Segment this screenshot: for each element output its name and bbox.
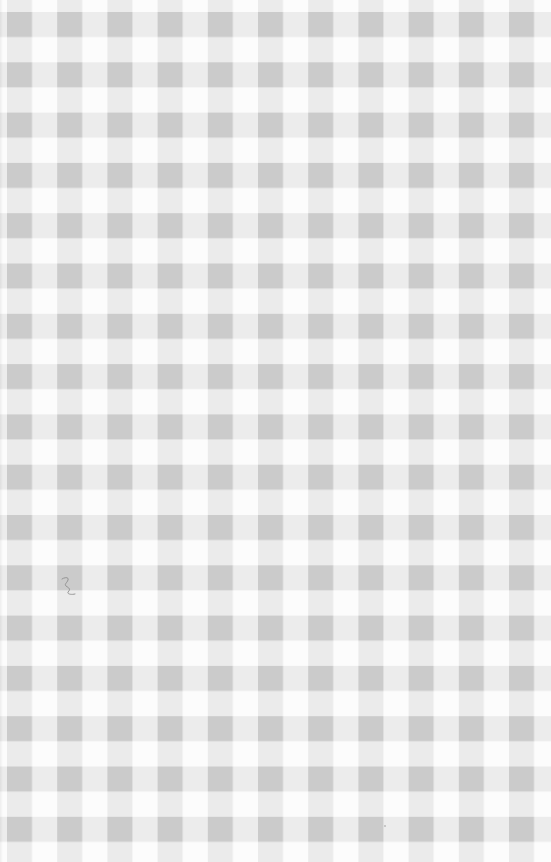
pencil-scribble-mark xyxy=(60,575,80,597)
fabric-speck xyxy=(384,825,386,827)
gingham-fabric xyxy=(0,0,551,862)
gingham-pattern xyxy=(0,0,551,862)
left-edge-shadow xyxy=(0,0,3,862)
